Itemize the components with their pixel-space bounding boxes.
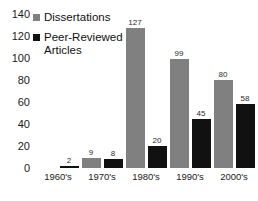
bar-slot: 99 [170,14,189,168]
x-axis: 1960's1970's1980's1990's2000's [36,172,256,188]
bar-value-label: 9 [89,149,93,157]
y-axis-tick-label: 40 [2,119,30,130]
black-square-icon [33,34,40,41]
x-axis-tick-label: 1960's [36,172,80,182]
bar-dissertations[interactable]: 80 [214,80,233,168]
bar-value-label: 99 [175,50,184,58]
bar-dissertations[interactable]: 99 [170,59,189,168]
bar-dissertations[interactable]: 9 [82,158,101,168]
gray-square-icon [33,14,40,21]
y-axis-tick-label: 0 [2,163,30,174]
bar-slot: 80 [214,14,233,168]
bar-value-label: 8 [111,150,115,158]
y-axis: 140120100806040200 [2,0,30,201]
x-axis-tick-label: 2000's [212,172,256,182]
legend-item-peer-reviewed-articles: Peer-Reviewed Articles [33,31,158,57]
bar-articles[interactable]: 45 [192,119,211,169]
bar-value-label: 20 [153,137,162,145]
bar-slot: 45 [192,14,211,168]
y-axis-tick-label: 20 [2,141,30,152]
chart-legend: Dissertations Peer-Reviewed Articles [33,11,158,65]
bar-articles[interactable]: 8 [104,159,123,168]
legend-label: Dissertations [44,11,110,24]
y-axis-tick-label: 80 [2,75,30,86]
bar-articles[interactable]: 20 [148,146,167,168]
legend-label: Peer-Reviewed Articles [44,31,158,57]
bar-value-label: 45 [197,110,206,118]
bar-articles[interactable]: 58 [236,104,255,168]
y-axis-tick-label: 100 [2,53,30,64]
bar-group: 9945 [168,14,212,168]
y-axis-tick-label: 140 [2,9,30,20]
x-axis-tick-label: 1980's [124,172,168,182]
y-axis-tick-label: 60 [2,97,30,108]
bar-articles[interactable]: 2 [60,166,79,168]
y-axis-tick-label: 120 [2,31,30,42]
bar-group: 8058 [212,14,256,168]
bar-value-label: 58 [241,95,250,103]
x-axis-tick-label: 1970's [80,172,124,182]
bar-slot: 58 [236,14,255,168]
x-axis-tick-label: 1990's [168,172,212,182]
legend-item-dissertations: Dissertations [33,11,158,24]
bar-chart: 140120100806040200 2981272099458058 1960… [0,0,258,201]
bar-value-label: 80 [219,71,228,79]
bar-value-label: 2 [67,157,71,165]
